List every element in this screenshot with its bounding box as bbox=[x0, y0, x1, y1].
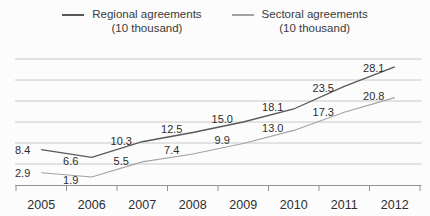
legend-label-sectoral-unit: (10 thousand) bbox=[262, 21, 368, 35]
legend-item-sectoral: Sectoral agreements (10 thousand) bbox=[232, 7, 368, 35]
regional-agreements-data-label: 12.5 bbox=[161, 123, 182, 135]
regional-agreements-data-label: 18.1 bbox=[262, 101, 283, 113]
sectoral-agreements-data-label: 7.4 bbox=[164, 144, 179, 156]
sectoral-agreements-data-label: 20.8 bbox=[363, 90, 384, 102]
legend-label-regional-name: Regional agreements bbox=[92, 7, 201, 21]
year-label: 2006 bbox=[78, 198, 106, 212]
legend-label-regional: Regional agreements (10 thousand) bbox=[92, 7, 201, 35]
regional-agreements-data-label: 8.4 bbox=[15, 144, 30, 156]
legend: Regional agreements (10 thousand) Sector… bbox=[0, 7, 430, 35]
regional-agreements-data-label: 6.6 bbox=[63, 155, 78, 167]
regional-agreements-data-label: 15.0 bbox=[212, 113, 233, 125]
sectoral-agreements-data-label: 2.9 bbox=[15, 167, 30, 179]
year-label: 2012 bbox=[381, 198, 409, 212]
year-label: 2005 bbox=[27, 198, 55, 212]
legend-item-regional: Regional agreements (10 thousand) bbox=[62, 7, 201, 35]
regional-agreements-data-label: 28.1 bbox=[363, 62, 384, 74]
sectoral-agreements-data-label: 5.5 bbox=[114, 155, 129, 167]
figure: Regional agreements (10 thousand) Sector… bbox=[0, 0, 430, 216]
year-label: 2008 bbox=[179, 198, 207, 212]
sectoral-line-swatch bbox=[232, 14, 254, 16]
year-label: 2010 bbox=[280, 198, 308, 212]
regional-agreements-data-label: 23.5 bbox=[313, 82, 334, 94]
year-label: 2007 bbox=[128, 198, 156, 212]
regional-line-swatch bbox=[62, 14, 84, 16]
regional-agreements-data-label: 10.3 bbox=[111, 135, 132, 147]
legend-label-sectoral: Sectoral agreements (10 thousand) bbox=[262, 7, 368, 35]
year-label: 2011 bbox=[331, 198, 358, 212]
year-label: 2009 bbox=[229, 198, 257, 212]
sectoral-agreements-data-label: 17.3 bbox=[313, 106, 334, 118]
sectoral-agreements-data-label: 1.9 bbox=[63, 174, 78, 186]
sectoral-agreements-data-label: 9.9 bbox=[215, 134, 230, 146]
sectoral-agreements-data-label: 13.0 bbox=[262, 122, 283, 134]
legend-label-sectoral-name: Sectoral agreements bbox=[262, 7, 368, 21]
legend-label-regional-unit: (10 thousand) bbox=[92, 21, 201, 35]
